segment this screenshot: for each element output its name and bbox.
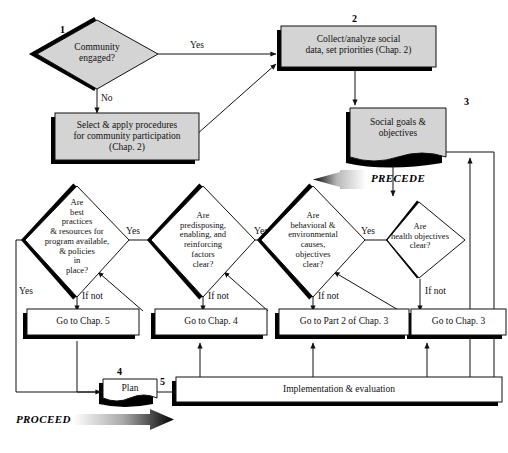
node-label-health-objectives: Are health objectives clear?	[384, 222, 456, 251]
node-label-goto-chap5: Go to Chap. 5	[27, 316, 139, 327]
node-number-1: 1	[60, 24, 65, 35]
phase-label-precede: PRECEDE	[371, 172, 425, 184]
node-label-behavioral: Are behavioral & environmental causes, o…	[268, 211, 358, 269]
node-label-social-goals: Social goals & objectives	[350, 117, 446, 139]
node-label-collect-analyze: Collect/analyze social data, set priorit…	[283, 34, 434, 56]
edge-label-best-ifnot: If not	[82, 291, 103, 301]
proceed-arrow-icon	[73, 409, 174, 430]
node-label-goto-chap4: Go to Chap. 4	[155, 316, 267, 327]
node-number-5: 5	[160, 376, 165, 387]
edge-label-best-yes: Yes	[19, 286, 33, 296]
phase-label-proceed: PROCEED	[16, 413, 71, 425]
node-label-select-procedures: Select & apply procedures for community …	[57, 120, 197, 154]
edge-ch5-to-plan	[77, 341, 101, 392]
edge-label-predisposing-yes: Yes	[126, 226, 140, 236]
node-number-2: 2	[352, 13, 357, 24]
edge-label-behavioral-yes: Yes	[254, 226, 268, 236]
edge-label-behavioral-ifnot: If not	[318, 291, 339, 301]
node-label-goto-part2-chap3: Go to Part 2 of Chap. 3	[279, 316, 409, 327]
node-label-community: Community engaged?	[57, 42, 137, 64]
edge-select-to-box2	[196, 64, 276, 135]
edge-label-predisposing-ifnot: If not	[208, 291, 229, 301]
node-label-best-practices: Are best practices & resources for progr…	[27, 198, 127, 276]
node-number-4: 4	[117, 366, 122, 377]
node-label-goto-chap3: Go to Chap. 3	[411, 316, 506, 327]
precede-arrow-icon	[313, 170, 366, 189]
edge-label-community-no: No	[101, 93, 113, 103]
flowchart-canvas: 1 2 3 4 5 Community engaged? Select & ap…	[0, 0, 508, 453]
edge-ch3-to-behavioral	[334, 272, 400, 311]
edge-part2ch3-to-predisposing	[224, 272, 268, 311]
edge-label-health-ifnot: If not	[425, 286, 446, 296]
node-label-predisposing: Are predisposing, enabling, and reinforc…	[158, 211, 248, 269]
edge-label-health-yes: Yes	[361, 226, 375, 236]
edge-ch4-to-best	[98, 272, 143, 311]
node-label-plan: Plan	[103, 383, 157, 394]
edge-implementation-feedback	[440, 152, 494, 381]
node-label-implementation: Implementation & evaluation	[176, 384, 502, 395]
node-number-3: 3	[464, 96, 469, 107]
edge-label-community-yes: Yes	[190, 40, 204, 50]
